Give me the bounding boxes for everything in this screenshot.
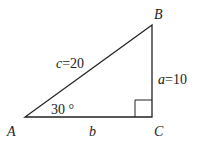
vertex-b-label: B	[154, 7, 163, 22]
right-angle-marker	[135, 100, 152, 117]
vertex-a-label: A	[6, 124, 16, 139]
side-a-label: a=10	[158, 72, 187, 87]
triangle-diagram: B A C b c=20 a=10 30 °	[0, 0, 197, 145]
triangle	[25, 25, 152, 117]
side-c-label: c=20	[56, 56, 84, 71]
angle-a-label: 30 °	[51, 102, 74, 117]
side-b-label: b	[89, 124, 96, 139]
vertex-c-label: C	[154, 124, 164, 139]
